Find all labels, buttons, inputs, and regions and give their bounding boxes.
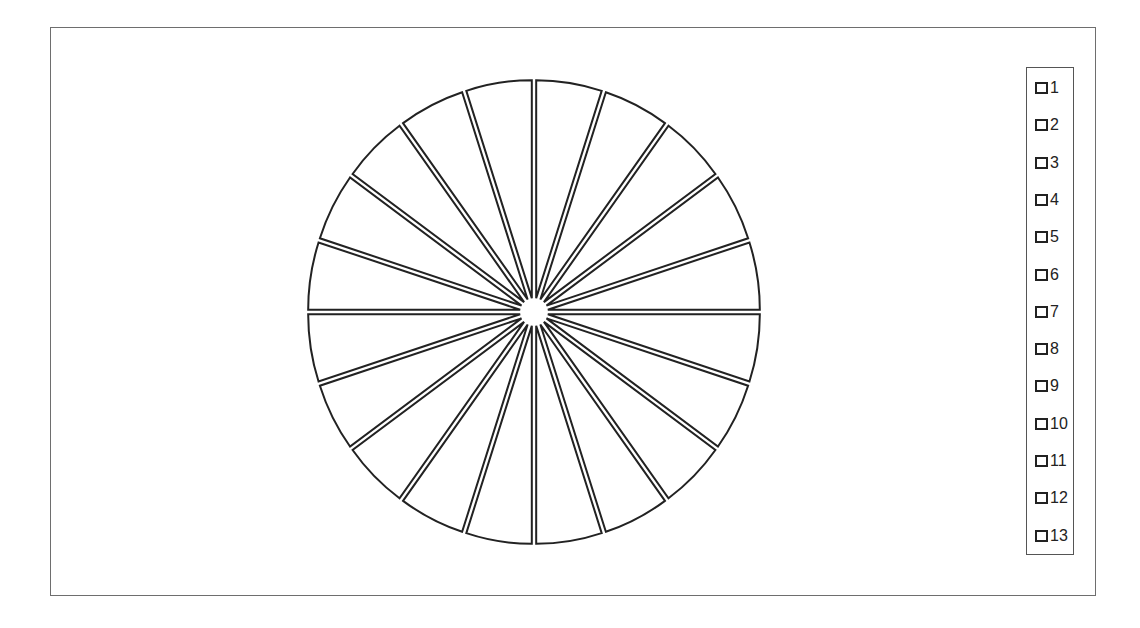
legend-item: 8 bbox=[1035, 339, 1059, 359]
legend-label: 2 bbox=[1050, 116, 1059, 134]
legend-item: 7 bbox=[1035, 302, 1059, 322]
legend-label: 7 bbox=[1050, 303, 1059, 321]
legend-label: 13 bbox=[1050, 527, 1068, 545]
legend-swatch-icon bbox=[1035, 269, 1048, 281]
legend-item: 5 bbox=[1035, 227, 1059, 247]
legend-item: 12 bbox=[1035, 488, 1068, 508]
chart-legend: 12345678910111213 bbox=[1026, 67, 1074, 555]
legend-swatch-icon bbox=[1035, 194, 1048, 206]
pie-chart bbox=[0, 0, 1140, 628]
legend-item: 9 bbox=[1035, 376, 1059, 396]
legend-swatch-icon bbox=[1035, 231, 1048, 243]
legend-item: 1 bbox=[1035, 78, 1059, 98]
legend-label: 9 bbox=[1050, 377, 1059, 395]
legend-label: 6 bbox=[1050, 266, 1059, 284]
legend-swatch-icon bbox=[1035, 530, 1048, 542]
legend-swatch-icon bbox=[1035, 380, 1048, 392]
legend-label: 3 bbox=[1050, 154, 1059, 172]
legend-item: 2 bbox=[1035, 115, 1059, 135]
legend-swatch-icon bbox=[1035, 119, 1048, 131]
legend-swatch-icon bbox=[1035, 418, 1048, 430]
legend-label: 10 bbox=[1050, 415, 1068, 433]
legend-swatch-icon bbox=[1035, 343, 1048, 355]
legend-label: 1 bbox=[1050, 79, 1059, 97]
legend-label: 4 bbox=[1050, 191, 1059, 209]
legend-swatch-icon bbox=[1035, 455, 1048, 467]
legend-label: 11 bbox=[1050, 452, 1067, 470]
legend-item: 3 bbox=[1035, 153, 1059, 173]
legend-item: 13 bbox=[1035, 526, 1068, 546]
legend-item: 11 bbox=[1035, 451, 1067, 471]
legend-swatch-icon bbox=[1035, 306, 1048, 318]
legend-swatch-icon bbox=[1035, 82, 1048, 94]
legend-swatch-icon bbox=[1035, 157, 1048, 169]
legend-label: 12 bbox=[1050, 489, 1068, 507]
legend-item: 10 bbox=[1035, 414, 1068, 434]
legend-swatch-icon bbox=[1035, 492, 1048, 504]
legend-label: 5 bbox=[1050, 228, 1059, 246]
legend-item: 6 bbox=[1035, 265, 1059, 285]
legend-item: 4 bbox=[1035, 190, 1059, 210]
legend-label: 8 bbox=[1050, 340, 1059, 358]
